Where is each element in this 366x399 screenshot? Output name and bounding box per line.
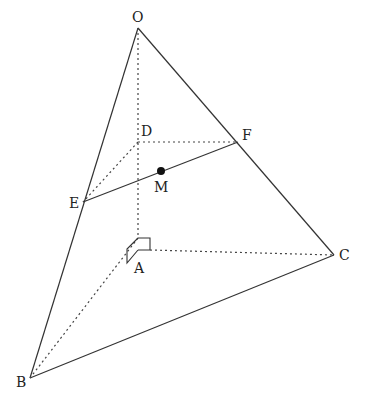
point-M xyxy=(157,167,165,175)
label-D: D xyxy=(141,124,152,138)
edge-BC xyxy=(30,255,334,378)
label-E: E xyxy=(69,196,79,210)
label-A: A xyxy=(134,261,144,275)
pyramid-diagram: O D F E M A C B xyxy=(0,0,366,399)
edge-OC xyxy=(138,28,334,255)
edge-AB-hidden xyxy=(30,238,138,378)
edge-OB xyxy=(30,28,138,378)
edge-AC-hidden xyxy=(150,250,334,255)
label-F: F xyxy=(242,128,252,142)
label-O: O xyxy=(132,10,143,24)
label-C: C xyxy=(339,248,350,262)
label-M: M xyxy=(154,180,168,194)
diagram-canvas xyxy=(0,0,366,399)
segment-DE-hidden xyxy=(83,142,138,202)
label-B: B xyxy=(16,375,26,389)
